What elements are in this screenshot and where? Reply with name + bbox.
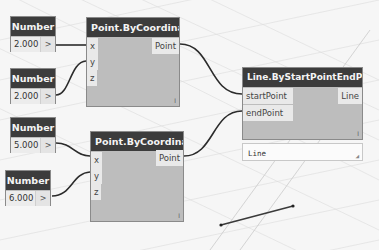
- node-title: Number: [11, 69, 55, 88]
- number-node-1[interactable]: Number 2.000 >: [10, 16, 56, 52]
- input-port-z[interactable]: z: [91, 184, 101, 200]
- output-port-arrow[interactable]: >: [36, 191, 50, 206]
- node-title: Line.ByStartPointEndPoint: [243, 68, 362, 87]
- node-title: Point.ByCoordinates: [91, 132, 183, 151]
- resize-grip-icon[interactable]: ◢: [355, 152, 359, 159]
- number-node-2[interactable]: Number 2.000 >: [10, 68, 56, 104]
- lacing-indicator: l: [357, 130, 359, 137]
- input-port-y[interactable]: y: [91, 168, 102, 184]
- output-port-point[interactable]: Point: [152, 38, 179, 54]
- node-title: Number: [11, 118, 55, 137]
- output-port-line[interactable]: Line: [338, 88, 362, 104]
- input-port-startpoint[interactable]: startPoint: [243, 88, 293, 104]
- number-value[interactable]: 2.000: [11, 89, 41, 104]
- lacing-indicator: l: [178, 212, 180, 219]
- output-port-point[interactable]: Point: [156, 150, 183, 166]
- line-bystartpointendpoint-node[interactable]: Line.ByStartPointEndPoint startPoint end…: [242, 67, 363, 140]
- node-title: Point.ByCoordinates: [87, 18, 179, 37]
- input-port-x[interactable]: x: [87, 38, 98, 54]
- input-port-z[interactable]: z: [87, 70, 97, 86]
- input-port-endpoint[interactable]: endPoint: [243, 105, 293, 121]
- node-title: Number: [6, 171, 50, 190]
- output-port-arrow[interactable]: >: [41, 89, 55, 104]
- input-port-x[interactable]: x: [91, 152, 102, 168]
- number-value[interactable]: 6.000: [6, 191, 36, 206]
- preview-value: Line: [248, 149, 266, 158]
- lacing-indicator: l: [174, 97, 176, 104]
- output-port-arrow[interactable]: >: [41, 37, 55, 52]
- number-node-3[interactable]: Number 5.000 >: [10, 117, 56, 153]
- output-port-arrow[interactable]: >: [41, 138, 55, 153]
- input-port-y[interactable]: y: [87, 54, 98, 70]
- point-bycoordinates-node-1[interactable]: Point.ByCoordinates x y z Point l: [86, 17, 180, 107]
- number-node-4[interactable]: Number 6.000 >: [5, 170, 51, 206]
- node-title: Number: [11, 17, 55, 36]
- graph-canvas[interactable]: Number 2.000 > Number 2.000 > Number 5.0…: [0, 0, 379, 250]
- number-value[interactable]: 2.000: [11, 37, 41, 52]
- point-bycoordinates-node-2[interactable]: Point.ByCoordinates x y z Point l: [90, 131, 184, 222]
- node-preview-bubble[interactable]: Line ◢: [242, 143, 363, 161]
- number-value[interactable]: 5.000: [11, 138, 41, 153]
